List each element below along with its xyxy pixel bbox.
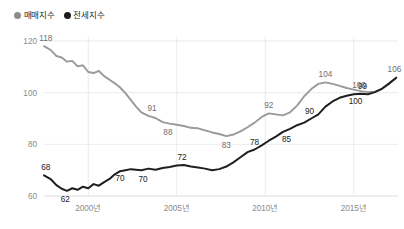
- x-axis-ticks: 2000년2005년2010년2015년: [75, 203, 367, 213]
- y-axis-ticks: 1201008060: [23, 37, 37, 201]
- x-tick-label-2000: 2000년: [75, 203, 101, 213]
- chart-plot-area: 1201008060 2000년2005년2010년2015년 11891888…: [0, 0, 404, 229]
- data-label-91: 91: [147, 104, 157, 113]
- y-tick-label-100: 100: [23, 89, 37, 98]
- data-label-83: 83: [222, 141, 232, 150]
- data-label-88: 88: [163, 128, 173, 137]
- data-label-68: 68: [41, 163, 51, 172]
- data-label-85: 85: [282, 135, 292, 144]
- x-tick-label-2005: 2005년: [164, 203, 190, 213]
- y-tick-label-120: 120: [23, 37, 37, 46]
- y-tick-label-80: 80: [28, 140, 38, 149]
- x-tick-label-2015: 2015년: [341, 203, 367, 213]
- data-label-90: 90: [305, 107, 315, 116]
- data-label-70: 70: [116, 174, 126, 183]
- data-series: [44, 46, 396, 191]
- data-label-70: 70: [139, 175, 149, 184]
- data-label-100: 100: [349, 97, 363, 106]
- gridlines: [44, 37, 398, 196]
- data-label-92: 92: [264, 101, 274, 110]
- data-label-72: 72: [178, 153, 188, 162]
- data-label-99: 99: [358, 82, 368, 91]
- chart-container: 매매지수 전세지수 1201008060 2000년2005년2010년2015…: [0, 0, 404, 229]
- data-label-106: 106: [388, 65, 402, 74]
- data-label-118: 118: [39, 34, 52, 43]
- data-label-62: 62: [61, 195, 71, 204]
- data-label-104: 104: [319, 70, 333, 79]
- data-label-78: 78: [250, 138, 260, 147]
- data-point-labels: 1189188839210410010668627072707885909910…: [39, 34, 401, 204]
- x-tick-label-2010: 2010년: [252, 203, 278, 213]
- y-tick-label-60: 60: [28, 192, 38, 201]
- series-line-sale: [44, 46, 396, 136]
